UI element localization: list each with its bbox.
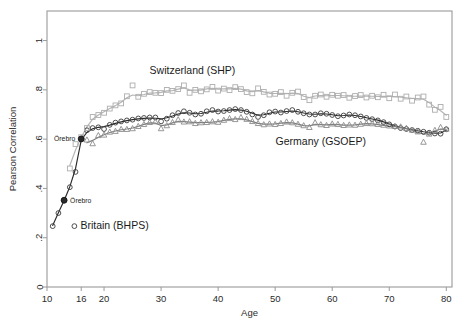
marker-circle: [159, 119, 164, 124]
y-tick-label-1: 1: [34, 38, 45, 43]
marker-triangle: [147, 119, 153, 124]
x-tick-label-70: 70: [384, 293, 395, 304]
marker-triangle: [347, 122, 353, 127]
marker-triangle: [369, 121, 375, 126]
marker-square: [341, 93, 346, 98]
annotation-marker-filled: [78, 136, 84, 142]
marker-square: [182, 83, 187, 88]
marker-triangle: [284, 119, 290, 124]
marker-circle: [438, 131, 443, 136]
chart-figure: 0.2.4.6.81101620304050607080AgePearson C…: [0, 0, 471, 331]
marker-square: [330, 92, 335, 97]
x-tick-label-16: 16: [76, 293, 87, 304]
annotation-label-label-switzerland: Switzerland (SHP): [150, 64, 236, 76]
marker-square: [130, 83, 135, 88]
annotation-marker-filled: [61, 197, 67, 203]
marker-square: [375, 95, 380, 100]
x-tick-label-80: 80: [441, 293, 452, 304]
marker-circle: [204, 109, 209, 114]
pearson-correlation-scatter-plot: 0.2.4.6.81101620304050607080AgePearson C…: [0, 0, 471, 331]
marker-triangle: [158, 126, 164, 131]
annotation-marker-open: [72, 224, 77, 229]
marker-triangle: [118, 126, 124, 131]
y-tick-label-0: 0: [34, 284, 45, 289]
marker-square: [438, 104, 443, 109]
marker-square: [187, 90, 192, 95]
marker-triangle: [187, 119, 193, 124]
x-tick-label-40: 40: [213, 293, 224, 304]
x-tick-label-30: 30: [156, 293, 167, 304]
x-tick-label-20: 20: [99, 293, 110, 304]
marker-circle: [193, 112, 198, 117]
marker-square: [67, 166, 72, 171]
x-tick-label-10: 10: [42, 293, 53, 304]
marker-circle: [176, 111, 181, 116]
marker-triangle: [210, 119, 216, 124]
marker-circle: [210, 108, 215, 113]
marker-circle: [102, 127, 107, 132]
marker-square: [358, 93, 363, 98]
y-tick-label-.4: .4: [34, 184, 45, 192]
y-tick-label-.8: .8: [34, 86, 45, 94]
marker-square: [324, 94, 329, 99]
y-axis-title: Pearson Correlation: [7, 107, 18, 192]
marker-square: [307, 98, 312, 103]
marker-circle: [290, 108, 295, 113]
marker-triangle: [267, 121, 273, 126]
marker-circle: [164, 116, 169, 121]
marker-triangle: [84, 137, 90, 142]
marker-triangle: [421, 139, 427, 144]
annotation-label-orebro-lower: Örebro: [70, 197, 91, 204]
annotation-label-label-britain: Britain (BHPS): [80, 219, 148, 231]
series-line-germany: [87, 119, 446, 143]
x-tick-label-60: 60: [327, 293, 338, 304]
marker-triangle: [244, 116, 250, 121]
x-axis-title: Age: [241, 307, 258, 318]
marker-triangle: [364, 120, 370, 125]
marker-circle: [267, 110, 272, 115]
marker-triangle: [290, 120, 296, 125]
annotation-label-label-germany: Germany (GSOEP): [276, 135, 366, 147]
y-tick-label-.2: .2: [34, 234, 45, 242]
marker-triangle: [335, 121, 341, 126]
marker-triangle: [329, 121, 335, 126]
y-tick-label-.6: .6: [34, 135, 45, 143]
marker-square: [421, 94, 426, 99]
annotation-label-orebro-upper: Örebro: [54, 135, 75, 142]
plot-frame: [47, 11, 452, 287]
x-tick-label-50: 50: [270, 293, 281, 304]
